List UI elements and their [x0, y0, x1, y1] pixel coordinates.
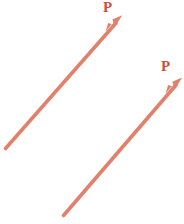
figure-canvas: P P — [0, 0, 184, 224]
diagram-background — [0, 0, 184, 224]
momentum-label-1: P — [103, 0, 112, 15]
vector-diagram — [0, 0, 184, 224]
momentum-label-2: P — [161, 59, 170, 74]
